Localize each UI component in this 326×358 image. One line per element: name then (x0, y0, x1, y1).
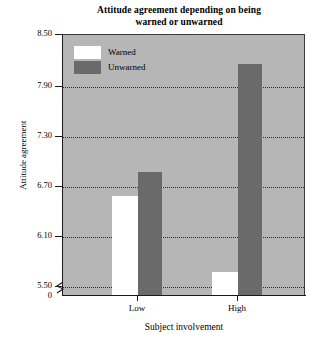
y-tick-mark-7.90 (55, 86, 62, 87)
legend-label-unwarned: Unwarned (108, 62, 146, 73)
chart-title-line-2: warned or unwarned (135, 17, 222, 27)
x-tick-mark-low (137, 295, 138, 301)
y-tick-label-7.30: 7.30 (10, 131, 52, 140)
bar-high-warned (212, 272, 238, 295)
chart-title: Attitude agreement depending on being wa… (48, 5, 310, 28)
y-tick-label-0: 0 (10, 291, 52, 300)
legend-swatch-warned-icon (74, 46, 101, 59)
gridline-5.50 (62, 287, 304, 288)
legend: Warned Unwarned (74, 45, 146, 75)
y-tick-mark-8.50 (55, 34, 62, 35)
legend-label-warned: Warned (108, 47, 136, 58)
y-axis-line (62, 34, 63, 295)
x-axis-title: Subject involvement (62, 322, 306, 332)
bar-high-unwarned (238, 64, 262, 295)
gridline-7.90 (62, 87, 304, 88)
y-tick-mark-6.10 (55, 236, 62, 237)
legend-swatch-unwarned-icon (74, 61, 101, 74)
y-tick-label-6.70: 6.70 (10, 181, 52, 190)
legend-item-unwarned: Unwarned (74, 60, 146, 75)
x-tick-label-high: High (207, 303, 267, 314)
y-tick-mark-7.30 (55, 136, 62, 137)
chart-figure: Attitude agreement depending on being wa… (0, 0, 326, 358)
x-tick-label-low: Low (107, 303, 167, 314)
y-tick-label-8.50: 8.50 (10, 29, 52, 38)
y-tick-label-6.10: 6.10 (10, 231, 52, 240)
bar-low-unwarned (138, 172, 162, 295)
y-axis-title: Attitude agreement (18, 85, 28, 225)
y-tick-mark-6.70 (55, 186, 62, 187)
y-tick-label-7.90: 7.90 (10, 81, 52, 90)
gridline-6.70 (62, 187, 304, 188)
bar-low-warned (112, 196, 138, 295)
gridline-7.30 (62, 137, 304, 138)
axis-break-icon (56, 282, 69, 297)
x-tick-mark-high (237, 295, 238, 301)
legend-item-warned: Warned (74, 45, 146, 60)
gridline-6.10 (62, 237, 304, 238)
chart-title-line-1: Attitude agreement depending on being (97, 5, 261, 15)
y-tick-label-5.50: 5.50 (10, 281, 52, 290)
x-axis-line (62, 295, 306, 296)
